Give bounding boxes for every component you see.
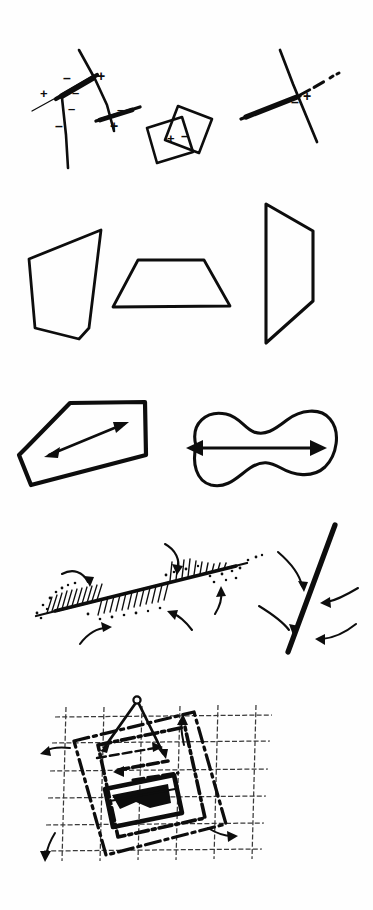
- fig-4b-thick-line-arrows: [259, 525, 358, 652]
- curved-arrow-3-tail: [80, 628, 106, 644]
- fig-1b-overlapping-squares: + –: [147, 106, 212, 163]
- arc-arrow-a-head: [298, 581, 308, 592]
- blob-arrowhead-right: [310, 440, 327, 456]
- arrow-left-bottom-head: [40, 851, 51, 862]
- hexagon-arrowhead-right: [113, 422, 129, 433]
- curved-arrow-1-head: [84, 576, 94, 587]
- curved-arrow-2-head: [172, 564, 183, 575]
- sign-minus-1: –: [63, 70, 71, 86]
- innermost-dark-frame: [105, 775, 182, 827]
- fig-1a-branching-lines-cluster: + – – + – – – +: [32, 50, 140, 168]
- quad-center-outline: [113, 260, 230, 307]
- fig-3a-hexagon-with-arrow: [19, 402, 146, 485]
- hexagon-arrowhead-left: [44, 447, 60, 458]
- background-grid: [44, 705, 272, 861]
- curved-arrow-3-head: [101, 622, 112, 632]
- hachures-above-left: [47, 584, 102, 613]
- sign-minus-right: –: [291, 94, 299, 110]
- arrow-right-bottom-head: [227, 831, 238, 842]
- curved-arrow-1-tail: [62, 571, 88, 582]
- fig-3b-peanut-blob-with-arrow: [186, 411, 336, 486]
- row-3-long-axis-arrows: [0, 375, 373, 530]
- sign-plus-2: +: [97, 68, 105, 84]
- dash-tail-2: [337, 73, 339, 74]
- dash-tail-1: [330, 76, 333, 78]
- fig-2b-trapezoid-center: [113, 260, 230, 307]
- row-1-crossing-lines: + – – + – – – + + – – +: [0, 0, 373, 190]
- arc-arrow-d-tail: [322, 624, 356, 639]
- arc-arrow-d-head: [315, 634, 325, 645]
- curved-arrows-left-figure: [62, 544, 226, 644]
- hexagon-axis-line: [49, 424, 124, 455]
- figure-page: + – – + – – – + + – – +: [0, 0, 373, 910]
- internal-tick-marks: [97, 742, 178, 780]
- thick-line-right-core: [246, 97, 297, 117]
- arc-arrow-a-tail: [278, 552, 302, 586]
- sign-minus-5: –: [117, 102, 124, 117]
- curved-arrow-5-head: [216, 586, 226, 597]
- hexagon-outline: [19, 402, 146, 485]
- sign-plus-squares: +: [167, 131, 175, 146]
- sign-plus-1: +: [40, 86, 48, 101]
- sign-minus-squares: –: [181, 128, 189, 144]
- arc-arrow-c-tail: [259, 606, 289, 630]
- fig-2a-tilted-quadrilateral-left: [29, 230, 101, 339]
- sign-plus-right: +: [303, 88, 311, 104]
- tick-row-2: [118, 761, 168, 770]
- quad-right-outline: [266, 204, 313, 343]
- quad-left-outline: [29, 230, 101, 339]
- arc-arrow-b-tail: [327, 588, 358, 602]
- compass-point-right: [158, 749, 168, 759]
- fig-5a-grid-with-frames: [40, 696, 272, 862]
- tick-arrow-2: [113, 766, 124, 777]
- fig-4a-hachured-line: [36, 544, 264, 644]
- sign-minus-2: –: [72, 85, 79, 100]
- fig-1c-thick-line-crossing: – +: [241, 50, 339, 142]
- thick-diagonal-line: [288, 525, 335, 652]
- row-4-hachured-line: [0, 518, 373, 683]
- sign-minus-3: –: [68, 101, 75, 116]
- row-5-rotated-frames-over-grid: [0, 685, 373, 895]
- curved-arrow-4-head: [167, 610, 178, 620]
- sign-minus-4: –: [55, 118, 63, 134]
- row-2-quadrilaterals: [0, 190, 373, 375]
- arrow-left-top-head: [40, 746, 51, 756]
- arc-arrow-b-head: [320, 597, 331, 608]
- fig-2c-tall-quadrilateral-right: [266, 204, 313, 343]
- sign-plus-3: +: [110, 118, 118, 134]
- compass-hinge: [133, 696, 140, 703]
